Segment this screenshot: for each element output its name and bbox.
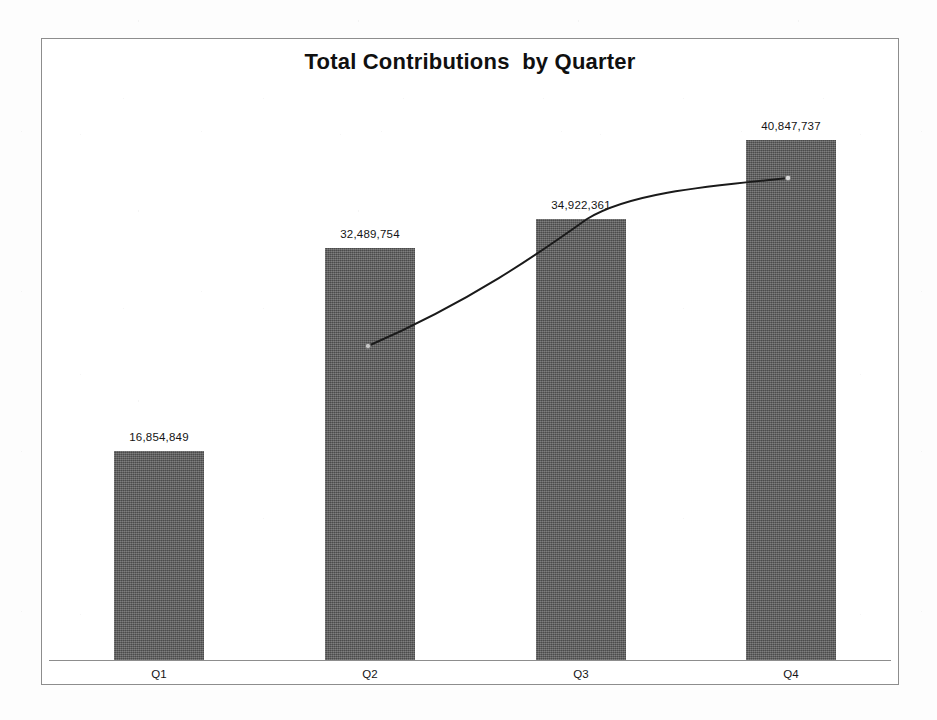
bar-value-q3: 34,922,361 bbox=[521, 199, 641, 211]
bar-value-q2: 32,489,754 bbox=[310, 228, 430, 240]
bar-q4[interactable] bbox=[746, 140, 836, 660]
bar-q1[interactable] bbox=[114, 451, 204, 660]
category-label-q3: Q3 bbox=[521, 668, 641, 680]
bars-layer: 16,854,849 Q1 32,489,754 Q2 34,922,361 Q… bbox=[42, 39, 898, 684]
category-label-q1: Q1 bbox=[99, 668, 219, 680]
bar-q2[interactable] bbox=[325, 248, 415, 660]
bar-value-q1: 16,854,849 bbox=[99, 431, 219, 443]
chart-frame: Total Contributions by Quarter 16,854,84… bbox=[41, 38, 899, 685]
category-label-q4: Q4 bbox=[731, 668, 851, 680]
bar-q3[interactable] bbox=[536, 219, 626, 660]
bar-value-q4: 40,847,737 bbox=[731, 120, 851, 132]
category-label-q2: Q2 bbox=[310, 668, 430, 680]
plot-area: 16,854,849 Q1 32,489,754 Q2 34,922,361 Q… bbox=[42, 39, 898, 684]
scanned-page: Total Contributions by Quarter 16,854,84… bbox=[0, 0, 937, 720]
